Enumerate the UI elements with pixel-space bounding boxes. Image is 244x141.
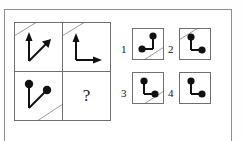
matrix-cell-top-left bbox=[14, 22, 63, 72]
option-3-figure bbox=[133, 73, 163, 103]
matrix-cell-top-right bbox=[62, 22, 111, 72]
matrix-cell-bottom-left-figure bbox=[15, 72, 62, 120]
option-4-number: 4 bbox=[168, 88, 174, 99]
option-4-figure bbox=[180, 73, 210, 103]
matrix-cell-answer-slot[interactable]: ? bbox=[62, 71, 111, 121]
matrix-cell-top-left-figure bbox=[15, 23, 62, 71]
matrix-cell-bottom-left bbox=[14, 71, 63, 121]
option-2-figure bbox=[180, 29, 210, 59]
option-2-number: 2 bbox=[168, 44, 174, 55]
option-1[interactable] bbox=[132, 28, 164, 60]
matrix-cell-top-right-figure bbox=[63, 23, 110, 71]
option-4[interactable] bbox=[179, 72, 211, 104]
matrix-grid: ? bbox=[14, 22, 113, 123]
option-2[interactable] bbox=[179, 28, 211, 60]
option-1-figure bbox=[133, 29, 163, 59]
option-1-number: 1 bbox=[121, 44, 127, 55]
option-3[interactable] bbox=[132, 72, 164, 104]
question-mark: ? bbox=[63, 72, 110, 120]
option-3-number: 3 bbox=[121, 88, 127, 99]
puzzle-page: ? 1 2 3 bbox=[0, 0, 244, 141]
